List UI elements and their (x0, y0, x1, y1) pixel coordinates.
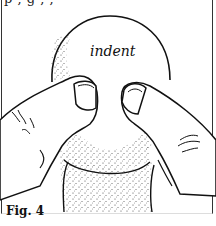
indent-label: indent (90, 43, 135, 59)
clay-shading-left (51, 34, 72, 82)
clay-thumbs-illustration (0, 0, 216, 226)
figure-caption: Fig. 4 (6, 204, 44, 218)
